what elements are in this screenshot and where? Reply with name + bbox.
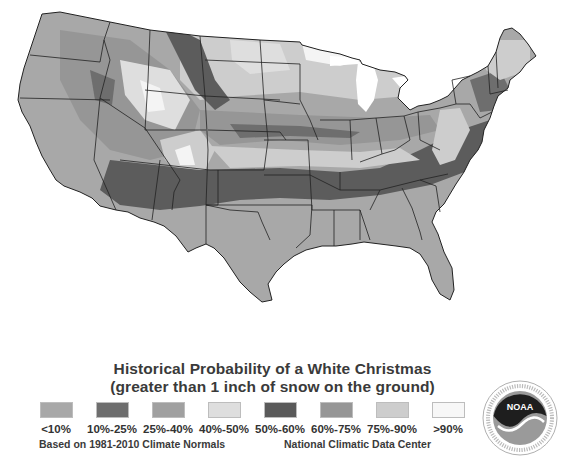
noaa-logo-text: NOAA (507, 402, 534, 412)
legend-swatch (40, 402, 73, 418)
ncdc-credit: National Climatic Data Center (284, 438, 431, 450)
map-title: Historical Probability of a White Christ… (0, 360, 559, 378)
legend-label: 75%-90% (362, 423, 422, 435)
legend-swatch (432, 402, 465, 418)
legend-item: 75%-90% (362, 400, 422, 435)
legend-item: 50%-60% (250, 400, 310, 435)
legend-item: 60%-75% (306, 400, 366, 435)
legend-swatch (320, 402, 353, 418)
legend-item: 25%-40% (138, 400, 198, 435)
legend-item: 40%-50% (194, 400, 254, 435)
legend-label: <10% (26, 423, 86, 435)
legend-swatch (264, 402, 297, 418)
climate-normals-note: Based on 1981-2010 Climate Normals (39, 438, 225, 450)
map-subtitle: (greater than 1 inch of snow on the grou… (0, 378, 559, 396)
legend-swatch (376, 402, 409, 418)
legend-item: 10%-25% (82, 400, 142, 435)
legend-item: >90% (418, 400, 478, 435)
legend-label: 40%-50% (194, 423, 254, 435)
noaa-logo-icon: NOAA (480, 378, 560, 458)
legend-label: 50%-60% (250, 423, 310, 435)
legend-label: 25%-40% (138, 423, 198, 435)
legend-label: 60%-75% (306, 423, 366, 435)
legend-swatch (96, 402, 129, 418)
legend-swatch (152, 402, 185, 418)
legend-item: <10% (26, 400, 86, 435)
legend-label: >90% (418, 423, 478, 435)
legend: <10% 10%-25% 25%-40% 40%-50% 50%-60% 60%… (0, 400, 480, 440)
legend-label: 10%-25% (82, 423, 142, 435)
legend-swatch (208, 402, 241, 418)
us-white-christmas-map (0, 0, 573, 360)
